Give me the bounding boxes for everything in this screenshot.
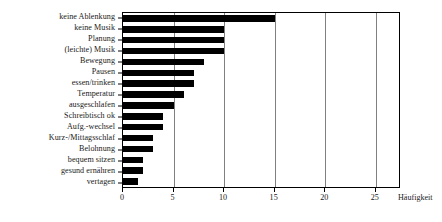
bar-slot <box>123 67 399 78</box>
bar <box>123 146 153 152</box>
category-label: keine Musik <box>0 23 118 34</box>
bar-slot <box>123 165 399 176</box>
category-label: Bewegung <box>0 56 118 67</box>
bar-slot <box>123 78 399 89</box>
bar <box>123 59 204 65</box>
value-tick-label: 15 <box>270 194 278 202</box>
bar <box>123 178 138 184</box>
bar-slot <box>123 35 399 46</box>
bar <box>123 113 163 119</box>
value-tick <box>375 188 376 192</box>
value-tick-label: 20 <box>320 194 328 202</box>
category-label: Kurz-/Mittagsschlaf <box>0 133 118 144</box>
category-label: vertagen <box>0 177 118 188</box>
value-tick <box>223 188 224 192</box>
bar-slot <box>123 89 399 100</box>
bar-slot <box>123 122 399 133</box>
bar <box>123 70 194 76</box>
category-label: gesund ernähren <box>0 166 118 177</box>
category-label: (leichte) Musik <box>0 45 118 56</box>
category-label: bequem sitzen <box>0 155 118 166</box>
value-axis-tick-labels: 0510152025 <box>122 194 400 208</box>
value-tick-label: 0 <box>120 194 124 202</box>
value-tick <box>324 188 325 192</box>
category-label: Belohnung <box>0 144 118 155</box>
bar-chart: keine Ablenkungkeine MusikPlanung(leicht… <box>0 0 442 222</box>
category-label: Aufg.-wechsel <box>0 122 118 133</box>
bar <box>123 157 143 163</box>
bar-slot <box>123 24 399 35</box>
bar <box>123 48 224 54</box>
bar <box>123 102 174 108</box>
bar-slot <box>123 13 399 24</box>
bar-slot <box>123 57 399 68</box>
value-tick-label: 25 <box>371 194 379 202</box>
bar-slot <box>123 133 399 144</box>
bar-slot <box>123 100 399 111</box>
bar-slot <box>123 144 399 155</box>
category-label: keine Ablenkung <box>0 12 118 23</box>
bar <box>123 135 153 141</box>
category-label: Schreibtisch ok <box>0 111 118 122</box>
bar <box>123 124 163 130</box>
category-label: Temperatur <box>0 89 118 100</box>
category-label: ausgeschlafen <box>0 100 118 111</box>
bars-layer <box>123 13 399 187</box>
bar-slot <box>123 154 399 165</box>
bar <box>123 167 143 173</box>
value-tick <box>122 188 123 192</box>
bar <box>123 37 224 43</box>
value-tick <box>173 188 174 192</box>
value-tick-label: 10 <box>219 194 227 202</box>
category-label: essen/trinken <box>0 78 118 89</box>
value-axis-title: Häufigkeit <box>398 194 433 202</box>
bar <box>123 80 194 86</box>
value-axis-ticks <box>122 188 400 193</box>
bar-slot <box>123 176 399 187</box>
bar <box>123 91 184 97</box>
plot-area <box>122 12 400 188</box>
bar-slot <box>123 111 399 122</box>
value-tick-label: 5 <box>171 194 175 202</box>
category-axis-labels: keine Ablenkungkeine MusikPlanung(leicht… <box>0 12 118 188</box>
bar-slot <box>123 46 399 57</box>
bar <box>123 15 275 21</box>
value-tick <box>274 188 275 192</box>
bar <box>123 26 224 32</box>
category-label: Pausen <box>0 67 118 78</box>
category-label: Planung <box>0 34 118 45</box>
